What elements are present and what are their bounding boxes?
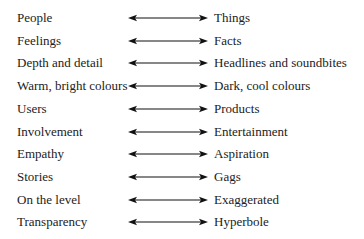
right-term: Products bbox=[214, 99, 260, 119]
comparison-row: Empathy Aspiration bbox=[0, 144, 364, 164]
left-term: Users bbox=[17, 99, 47, 119]
double-headed-arrow-icon bbox=[128, 172, 208, 182]
comparison-row: On the level Exaggerated bbox=[0, 190, 364, 210]
double-headed-arrow-icon bbox=[128, 104, 208, 114]
right-term: Hyperbole bbox=[214, 212, 269, 232]
left-term: On the level bbox=[17, 190, 81, 210]
left-term: Stories bbox=[17, 167, 53, 187]
left-term: People bbox=[17, 8, 52, 28]
right-term: Aspiration bbox=[214, 144, 269, 164]
double-headed-arrow-icon bbox=[128, 13, 208, 23]
comparison-row: Feelings Facts bbox=[0, 31, 364, 51]
comparison-row: Transparency Hyperbole bbox=[0, 212, 364, 232]
right-term: Gags bbox=[214, 167, 241, 187]
double-headed-arrow-icon bbox=[128, 217, 208, 227]
left-term: Warm, bright colours bbox=[17, 76, 128, 96]
right-term: Exaggerated bbox=[214, 190, 279, 210]
comparison-row: Depth and detail Headlines and soundbite… bbox=[0, 53, 364, 73]
double-headed-arrow-icon bbox=[128, 36, 208, 46]
left-term: Transparency bbox=[17, 212, 87, 232]
comparison-row: Warm, bright colours Dark, cool colours bbox=[0, 76, 364, 96]
right-term: Entertainment bbox=[214, 122, 288, 142]
left-term: Feelings bbox=[17, 31, 61, 51]
double-headed-arrow-icon bbox=[128, 58, 208, 68]
double-headed-arrow-icon bbox=[128, 81, 208, 91]
left-term: Involvement bbox=[17, 122, 83, 142]
double-headed-arrow-icon bbox=[128, 127, 208, 137]
comparison-row: Users Products bbox=[0, 99, 364, 119]
left-term: Depth and detail bbox=[17, 53, 103, 73]
comparison-row: Involvement Entertainment bbox=[0, 122, 364, 142]
right-term: Facts bbox=[214, 31, 241, 51]
double-headed-arrow-icon bbox=[128, 149, 208, 159]
double-headed-arrow-icon bbox=[128, 195, 208, 205]
comparison-row: People Things bbox=[0, 8, 364, 28]
right-term: Things bbox=[214, 8, 250, 28]
left-term: Empathy bbox=[17, 144, 64, 164]
comparison-row: Stories Gags bbox=[0, 167, 364, 187]
right-term: Headlines and soundbites bbox=[214, 53, 347, 73]
right-term: Dark, cool colours bbox=[214, 76, 310, 96]
